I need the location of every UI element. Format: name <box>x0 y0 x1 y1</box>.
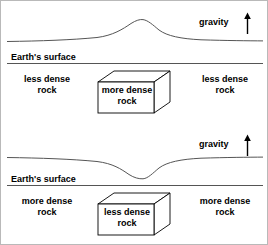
gravity-label-top: gravity <box>199 17 229 28</box>
gravity-label-bottom: gravity <box>199 139 229 150</box>
left-rock-label-bottom: more dense rock <box>7 196 87 218</box>
up-arrow-icon <box>244 13 251 35</box>
left-rock-label-top: less dense rock <box>7 74 87 96</box>
panel-negative-anomaly: gravity Earth's surface more dense rock … <box>1 123 268 245</box>
buried-body-label-bottom: less dense rock <box>99 207 155 229</box>
right-rock-label-bottom: more dense rock <box>185 196 265 218</box>
earth-surface-label-bottom: Earth's surface <box>11 174 76 185</box>
panel-positive-anomaly: gravity Earth's surface less dense rock … <box>1 1 268 124</box>
up-arrow-icon <box>244 135 251 157</box>
earth-surface-label-top: Earth's surface <box>11 52 76 63</box>
buried-body-label-top: more dense rock <box>99 85 155 107</box>
gravity-anomaly-diagram: gravity Earth's surface less dense rock … <box>0 0 268 245</box>
right-rock-label-top: less dense rock <box>185 74 265 96</box>
